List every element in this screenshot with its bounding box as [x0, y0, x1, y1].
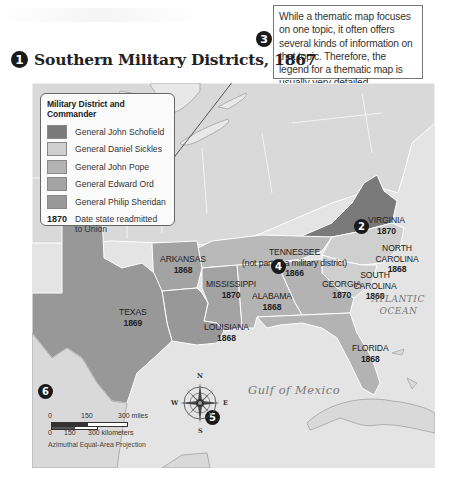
faint-bleed-through-text — [0, 8, 200, 22]
legend-item-pope: General John Pope — [47, 158, 168, 176]
water-label-line: ATLANTIC — [372, 293, 425, 305]
number-badge-6: 6 — [38, 384, 53, 399]
number-badge-3: 3 — [256, 31, 272, 47]
state-year: 1866 — [242, 268, 347, 279]
state-name: LOUISIANA — [204, 322, 249, 332]
label-atlantic-ocean: ATLANTIC OCEAN — [372, 293, 425, 317]
scale-km-ticks: 0 150 300 kilometers — [48, 429, 168, 439]
legend-label: General John Pope — [75, 162, 149, 172]
legend-swatch — [47, 160, 67, 174]
state-year: 1870 — [322, 290, 361, 301]
legend-swatch — [47, 177, 67, 191]
label-tennessee: TENNESSEE (not part of a military distri… — [242, 247, 347, 279]
legend-swatch — [47, 142, 67, 156]
compass-icon — [172, 375, 228, 431]
state-year: 1868 — [160, 265, 206, 276]
legend-label: General Edward Ord — [75, 179, 154, 189]
scale-tick: 0 — [48, 412, 52, 419]
map-title: Southern Military Districts, 1867 — [34, 50, 316, 69]
label-texas: TEXAS 1869 — [119, 307, 147, 328]
label-arkansas: ARKANSAS 1868 — [160, 254, 206, 275]
map-area: Military District and Commander General … — [32, 83, 435, 468]
compass-west: W — [171, 399, 178, 407]
map-title-row: 1 Southern Military Districts, 1867 — [11, 50, 316, 69]
compass-north: N — [197, 372, 203, 380]
legend-swatch — [47, 195, 67, 209]
legend-item-sickles: General Daniel Sickles — [47, 141, 168, 159]
legend-date-description: Date state readmitted to Union — [75, 214, 165, 235]
state-name: ARKANSAS — [160, 254, 206, 264]
scale-tick: 0 — [48, 429, 52, 436]
state-name: FLORIDA — [352, 343, 389, 353]
state-year: 1868 — [204, 333, 249, 344]
state-name: VIRGINIA — [368, 215, 405, 225]
scale-bar — [48, 422, 168, 429]
state-year: 1869 — [119, 318, 147, 329]
state-name: ALABAMA — [252, 291, 292, 301]
state-name: GEORGIA — [322, 279, 361, 289]
scale-tick: 150 — [81, 412, 93, 419]
map-scale: 0 150 300 miles 0 150 300 kilometers Azi… — [48, 412, 168, 448]
legend-label: General Daniel Sickles — [75, 144, 162, 154]
state-year: 1868 — [252, 302, 292, 313]
legend-title: Military District and Commander — [47, 99, 168, 119]
label-gulf-of-mexico: Gulf of Mexico — [248, 383, 340, 397]
compass-rose: N S E W — [172, 375, 228, 431]
number-badge-2: 2 — [354, 219, 369, 234]
number-badge-4: 4 — [271, 259, 286, 274]
map-projection: Azimuthal Equal-Area Projection — [48, 441, 168, 448]
legend-swatch — [47, 125, 67, 139]
map-legend: Military District and Commander General … — [40, 93, 175, 226]
state-name: TEXAS — [119, 307, 147, 317]
state-name: TENNESSEE — [242, 247, 347, 258]
label-georgia: GEORGIA 1870 — [322, 279, 361, 300]
label-louisiana: LOUISIANA 1868 — [204, 322, 249, 343]
label-alabama: ALABAMA 1868 — [252, 291, 292, 312]
legend-item-sheridan: General Philip Sheridan — [47, 193, 168, 211]
state-year: 1870 — [368, 226, 405, 237]
label-virginia: VIRGINIA 1870 — [368, 215, 405, 236]
state-note: (not part of a military district) — [242, 258, 347, 269]
compass-south: S — [198, 427, 203, 435]
scale-tick: 300 miles — [118, 412, 148, 419]
state-name: NORTH CAROLINA — [367, 243, 427, 264]
label-florida: FLORIDA 1868 — [352, 343, 389, 364]
legend-item-schofield: General John Schofield — [47, 123, 168, 141]
scale-miles-ticks: 0 150 300 miles — [48, 412, 168, 422]
scale-tick: 300 kilometers — [88, 429, 134, 436]
water-label-line: OCEAN — [372, 305, 425, 317]
label-mississippi: MISSISSIPPI 1870 — [206, 279, 256, 300]
number-badge-1: 1 — [11, 51, 28, 68]
legend-date-sample: 1870 — [47, 214, 75, 224]
scale-tick: 150 — [64, 429, 76, 436]
state-name: MISSISSIPPI — [206, 279, 256, 289]
legend-label: General Philip Sheridan — [75, 197, 166, 207]
legend-label: General John Schofield — [75, 127, 164, 137]
state-year: 1870 — [206, 290, 256, 301]
legend-date-key: 1870 Date state readmitted to Union — [47, 214, 168, 235]
compass-east: E — [223, 399, 228, 407]
legend-item-ord: General Edward Ord — [47, 176, 168, 194]
state-year: 1868 — [352, 354, 389, 365]
